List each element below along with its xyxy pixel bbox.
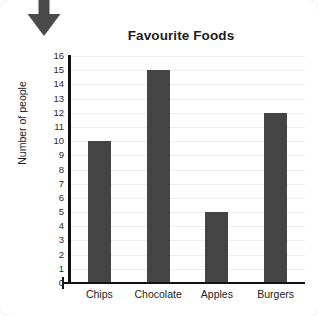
bar-burgers bbox=[264, 113, 287, 283]
y-axis-tick-label: 3 bbox=[40, 235, 64, 245]
y-axis-tick-label: 7 bbox=[40, 179, 64, 189]
y-axis-tick-label: 5 bbox=[40, 207, 64, 217]
x-axis-tick-label: Chocolate bbox=[134, 288, 181, 300]
y-axis-tick-label: 11 bbox=[40, 122, 64, 132]
bar-chocolate bbox=[147, 70, 170, 283]
y-axis-label: Number of people bbox=[16, 63, 28, 183]
y-axis-tick-label: 15 bbox=[40, 65, 64, 75]
y-axis-ticks: 161514131211109876543210 bbox=[38, 56, 64, 283]
plot-area bbox=[70, 56, 305, 283]
y-axis-tick-label: 10 bbox=[40, 136, 64, 146]
y-axis-tick-label: 13 bbox=[40, 94, 64, 104]
gridline bbox=[70, 56, 305, 57]
gridline bbox=[70, 99, 305, 100]
y-axis-tick-label: 14 bbox=[40, 79, 64, 89]
y-axis-tick-label: 16 bbox=[40, 51, 64, 61]
chart-card: Favourite Foods Number of people 1615141… bbox=[0, 0, 318, 316]
y-axis-tick-label: 2 bbox=[40, 250, 64, 260]
x-axis-tick-label: Chips bbox=[86, 288, 113, 300]
x-axis-line bbox=[62, 282, 305, 284]
bar-apples bbox=[205, 212, 228, 283]
chart-title: Favourite Foods bbox=[0, 28, 318, 43]
y-axis-line bbox=[68, 55, 71, 284]
gridline bbox=[70, 70, 305, 71]
y-axis-tick-label: 6 bbox=[40, 193, 64, 203]
y-axis-tick-label: 8 bbox=[40, 165, 64, 175]
x-axis-tick-label: Apples bbox=[201, 288, 233, 300]
y-axis-tick-label: 4 bbox=[40, 221, 64, 231]
y-axis-tick-label: 1 bbox=[40, 264, 64, 274]
y-axis-tick-label: 0 bbox=[40, 278, 64, 288]
x-axis-tick-label: Burgers bbox=[257, 288, 294, 300]
bar-chips bbox=[88, 141, 111, 283]
y-axis-tick-label: 12 bbox=[40, 108, 64, 118]
gridline bbox=[70, 84, 305, 85]
x-axis-ticks: ChipsChocolateApplesBurgers bbox=[70, 288, 305, 308]
y-axis-tick-label: 9 bbox=[40, 150, 64, 160]
